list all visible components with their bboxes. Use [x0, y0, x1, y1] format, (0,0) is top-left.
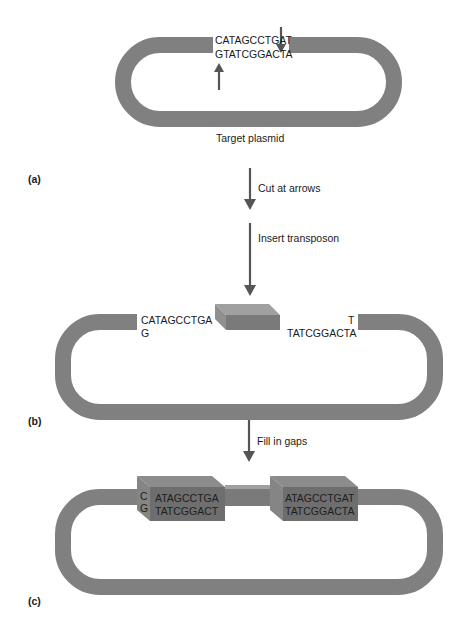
arrow-down-icon — [243, 451, 255, 462]
top-strand-sequence: CATAGCCTGAT — [215, 34, 293, 46]
right-top-strand: T — [348, 314, 355, 326]
insert-transposon-label: Insert transposon — [258, 232, 339, 244]
panel-c: C G ATAGCCTGA TATCGGACT ATAGCCTGAT TATCG… — [28, 476, 435, 607]
panel-c-label: (c) — [28, 595, 41, 607]
cut-at-arrows-label: Cut at arrows — [258, 182, 320, 194]
right-block-top-strand: ATAGCCTGAT — [285, 492, 355, 504]
arrow-down-icon — [244, 285, 256, 296]
left-bottom-strand: G — [141, 327, 149, 339]
bottom-strand-sequence: GTATCGGACTA — [215, 48, 293, 60]
panel-a-label: (a) — [28, 173, 41, 185]
cut-arrow-up-icon — [214, 63, 224, 90]
left-block-top-strand: ATAGCCTGA — [155, 492, 219, 504]
transposition-diagram: CATAGCCTGAT GTATCGGACTA Target plasmid (… — [0, 0, 465, 635]
panel-a: CATAGCCTGAT GTATCGGACTA Target plasmid (… — [28, 27, 394, 185]
left-overhang-top: C — [140, 490, 148, 502]
transposon-connector — [225, 485, 270, 506]
step-insert-arrow: Insert transposon — [244, 223, 339, 296]
transposon-block — [215, 304, 280, 330]
right-block-bottom-strand: TATCGGACTA — [285, 505, 354, 517]
target-plasmid-label: Target plasmid — [216, 132, 284, 144]
left-overhang-bottom: G — [140, 502, 148, 514]
left-block-bottom-strand: TATCGGACT — [155, 505, 219, 517]
fill-in-gaps-label: Fill in gaps — [257, 435, 307, 447]
right-bottom-strand: TATCGGACTA — [287, 327, 356, 339]
arrow-down-icon — [244, 199, 256, 210]
panel-b: CATAGCCTGA G T TATCGGACTA (b) — [28, 304, 435, 427]
step-fill-arrow: Fill in gaps — [243, 420, 307, 462]
left-top-strand: CATAGCCTGA — [141, 314, 212, 326]
panel-b-label: (b) — [28, 415, 41, 427]
final-plasmid-loop — [63, 497, 435, 587]
cut-plasmid-loop — [63, 322, 435, 412]
step-cut-arrow: Cut at arrows — [244, 168, 320, 210]
